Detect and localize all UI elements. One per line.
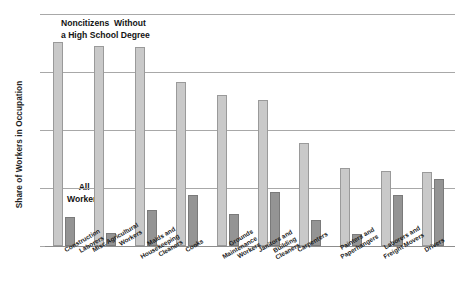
bar [53, 42, 63, 246]
y-tick-mark [40, 14, 45, 15]
gridline-6% [45, 72, 455, 73]
gridline-2% [45, 188, 455, 189]
bar [176, 82, 186, 246]
bar [94, 46, 104, 246]
bar [135, 47, 145, 246]
y-tick-mark [40, 72, 45, 73]
annotation-noncitizens: Noncitizens Without a High School Degree [61, 18, 150, 41]
bar [299, 143, 309, 246]
bar [188, 195, 198, 246]
bar [340, 168, 350, 246]
y-tick-mark [40, 130, 45, 131]
y-axis-title: Share of Workers in Occupation [15, 65, 24, 225]
bar [381, 171, 391, 246]
gridline-4% [45, 130, 455, 131]
plot-area: Noncitizens Without a High School Degree… [45, 14, 455, 246]
bar [217, 95, 227, 246]
y-tick-mark [40, 188, 45, 189]
x-axis-category-labels: Construction LaborersMisc Agricultural W… [45, 247, 455, 307]
gridline-8% [45, 14, 455, 15]
bar-chart: Share of Workers in Occupation Noncitize… [0, 0, 459, 307]
bar [258, 100, 268, 246]
